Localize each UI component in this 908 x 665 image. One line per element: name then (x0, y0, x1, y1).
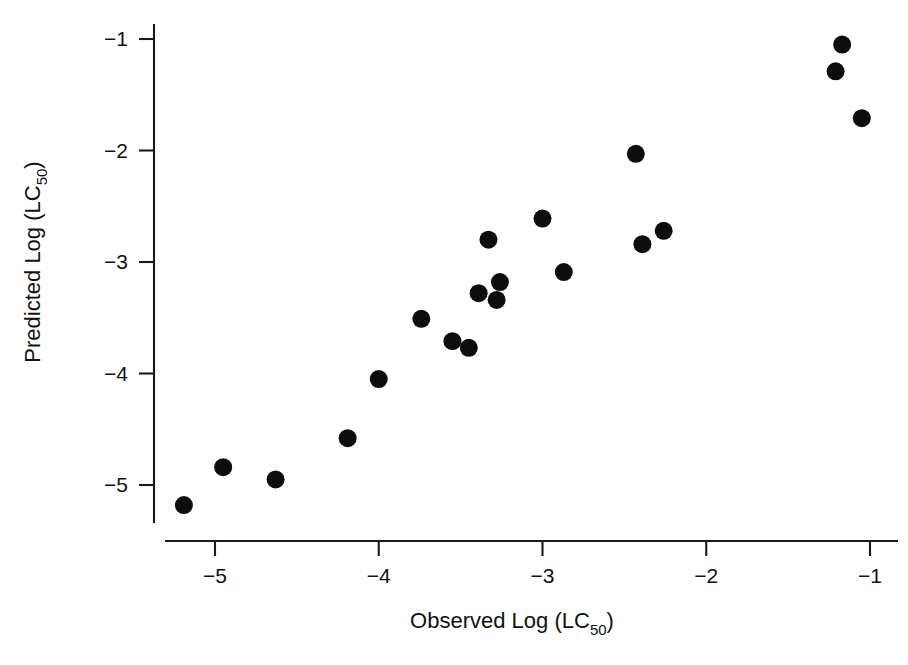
scatter-plot-figure: −1−2−3−4−5 −5−4−3−2−1 Observed Log (LC50… (0, 0, 908, 665)
x-axis-title: Observed Log (LC50) (410, 608, 614, 638)
data-points-layer (175, 36, 871, 514)
x-axis-tick-labels: −5−4−3−2−1 (203, 564, 882, 587)
data-point (655, 222, 673, 240)
data-point (627, 145, 645, 163)
y-tick-label: −3 (104, 250, 128, 273)
x-tick-label: −2 (694, 564, 718, 587)
data-point (267, 470, 285, 488)
y-tick-label: −1 (104, 27, 128, 50)
y-axis-title-subscript: 50 (33, 169, 50, 186)
data-point (853, 109, 871, 127)
x-tick-label: −3 (531, 564, 555, 587)
data-point (488, 291, 506, 309)
y-tick-label: −5 (104, 473, 128, 496)
data-point (443, 332, 461, 350)
y-axis-ticks (139, 39, 154, 485)
x-tick-label: −4 (367, 564, 391, 587)
x-axis-group: −5−4−3−2−1 (165, 541, 898, 587)
data-point (534, 210, 552, 228)
y-axis-group: −1−2−3−4−5 (104, 24, 154, 523)
data-point (175, 496, 193, 514)
data-point (470, 284, 488, 302)
x-tick-label: −1 (858, 564, 882, 587)
y-axis-title-tail: ) (20, 161, 45, 168)
x-axis-title-main: Observed Log (LC (410, 608, 590, 633)
data-point (833, 36, 851, 54)
data-point (412, 310, 430, 328)
plot-canvas: −1−2−3−4−5 −5−4−3−2−1 Observed Log (LC50… (0, 0, 908, 665)
x-axis-ticks (215, 541, 870, 556)
y-tick-label: −2 (104, 139, 128, 162)
data-point (339, 429, 357, 447)
y-axis-tick-labels: −1−2−3−4−5 (104, 27, 128, 496)
data-point (479, 231, 497, 249)
data-point (827, 62, 845, 80)
x-axis-title-tail: ) (607, 608, 614, 633)
data-point (460, 339, 478, 357)
data-point (370, 370, 388, 388)
x-axis-title-subscript: 50 (590, 621, 607, 638)
y-axis-title: Predicted Log (LC50) (20, 161, 50, 362)
data-point (555, 263, 573, 281)
data-point (491, 273, 509, 291)
y-tick-label: −4 (104, 362, 128, 385)
data-point (633, 235, 651, 253)
data-point (214, 458, 232, 476)
x-tick-label: −5 (203, 564, 227, 587)
y-axis-title-main: Predicted Log (LC (20, 185, 45, 362)
